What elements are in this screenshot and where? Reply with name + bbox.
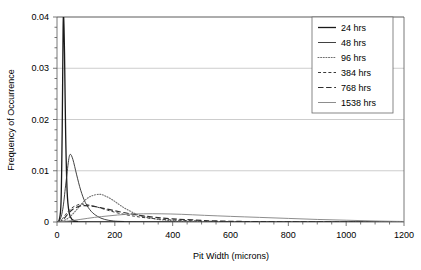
- legend-label-1538-hrs: 1538 hrs: [341, 98, 377, 108]
- legend-label-48-hrs: 48 hrs: [341, 38, 367, 48]
- frequency-distribution-chart: 020040060080010001200 00.010.020.030.04 …: [0, 0, 421, 270]
- y-axis-tick-label: 0: [44, 217, 49, 227]
- y-axis-tick-label: 0.01: [31, 166, 49, 176]
- legend-label-96-hrs: 96 hrs: [341, 53, 367, 63]
- x-axis-tick-label: 1200: [394, 230, 414, 240]
- x-axis-tick-label: 600: [223, 230, 238, 240]
- y-axis-title: Frequency of Occurrence: [6, 69, 16, 171]
- chart-container: 020040060080010001200 00.010.020.030.04 …: [0, 0, 421, 270]
- x-axis-tick-label: 200: [107, 230, 122, 240]
- x-axis-tick-label: 1000: [336, 230, 356, 240]
- legend-label-768-hrs: 768 hrs: [341, 83, 372, 93]
- x-axis-tick-label: 0: [54, 230, 59, 240]
- x-axis-tick-label: 400: [165, 230, 180, 240]
- y-axis-tick-label: 0.03: [31, 63, 49, 73]
- legend-label-24-hrs: 24 hrs: [341, 23, 367, 33]
- x-axis-tick-label: 800: [281, 230, 296, 240]
- y-axis-tick-label: 0.04: [31, 12, 49, 22]
- chart-legend: 24 hrs48 hrs96 hrs384 hrs768 hrs1538 hrs: [312, 17, 393, 113]
- x-axis-title: Pit Width (microns): [193, 251, 269, 261]
- y-axis-tick-label: 0.02: [31, 115, 49, 125]
- legend-label-384-hrs: 384 hrs: [341, 68, 372, 78]
